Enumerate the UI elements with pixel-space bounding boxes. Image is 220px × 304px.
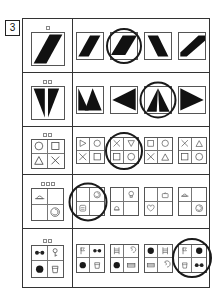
flag-icon (179, 245, 191, 257)
option-3-row-2[interactable] (144, 86, 172, 114)
tick-mark (48, 239, 52, 243)
grid-cell (77, 188, 91, 202)
grid-cell (179, 202, 193, 216)
ladder-icon (159, 245, 171, 257)
problem-row-2 (23, 73, 209, 127)
cross-icon (145, 151, 157, 163)
tick-marks-row-2 (43, 80, 52, 85)
triangle-up-icon (193, 138, 205, 149)
option-4-row-3[interactable] (178, 137, 207, 164)
grid-cell (179, 188, 193, 202)
stem-cell-row-4 (23, 175, 73, 228)
stem-cell-row-1 (23, 19, 73, 72)
cup-icon (179, 259, 191, 271)
diagonal-band-stem (31, 32, 65, 66)
circle-icon (125, 151, 137, 163)
option-1-row-3[interactable] (76, 137, 105, 164)
swirl-icon (91, 189, 103, 201)
tick-mark (43, 133, 47, 137)
tick-marks-row-4 (41, 182, 55, 187)
option-1-row-4[interactable] (76, 187, 105, 216)
grid-cell (90, 245, 104, 259)
grid-cell (124, 151, 138, 164)
cross-icon (111, 138, 123, 149)
option-3-row-4[interactable] (144, 187, 173, 216)
triangle-split-vertical-glyph (145, 87, 171, 113)
grid-cell (77, 138, 91, 151)
option-1-row-2[interactable] (76, 86, 104, 114)
blank-icon (125, 202, 137, 214)
blank-icon (91, 202, 103, 214)
circle-icon (32, 140, 46, 152)
grid-cell (145, 258, 159, 272)
blank-icon (111, 189, 123, 201)
ladder-icon (111, 245, 123, 257)
grid-cell (192, 202, 206, 216)
scroll-icon (77, 202, 89, 214)
option-3-row-3[interactable] (144, 137, 173, 164)
cup-icon (91, 259, 103, 271)
grid-cell (145, 151, 159, 164)
grid-cell (90, 188, 104, 202)
option-4-row-2[interactable] (178, 86, 206, 114)
grid-cell (32, 246, 48, 262)
blank-icon (179, 202, 191, 214)
object-grid-stem (31, 245, 64, 278)
grid-cell (32, 140, 48, 154)
tick-mark (43, 80, 47, 84)
grid-cell (124, 138, 138, 151)
grid-cell (48, 154, 64, 168)
grid-cell (48, 140, 64, 154)
disc-icon (193, 245, 205, 257)
option-3-row-1[interactable] (144, 32, 172, 60)
grid-cell (192, 188, 206, 202)
grid-cell (77, 202, 91, 216)
grid-cell (179, 138, 193, 151)
option-4-row-4[interactable] (178, 187, 207, 216)
option-3-row-5[interactable] (144, 244, 173, 273)
band-down-right-glyph (145, 33, 171, 59)
blank-icon (193, 189, 205, 201)
tick-mark (41, 182, 45, 186)
option-4-row-5[interactable] (178, 244, 207, 273)
double-triangle-down-glyph (32, 87, 64, 119)
grid-cell (179, 258, 193, 272)
option-1-row-5[interactable] (76, 244, 105, 273)
tick-marks-row-3 (43, 133, 52, 138)
cross-icon (77, 151, 89, 163)
triangle-up-icon (32, 154, 46, 167)
grid-cell (111, 188, 125, 202)
triangle-right-glyph (179, 87, 205, 113)
option-1-row-1[interactable] (76, 32, 104, 60)
item-number-box: 3 (5, 20, 20, 36)
option-2-row-4[interactable] (110, 187, 139, 216)
grid-cell (124, 245, 138, 259)
cross-icon (48, 154, 63, 167)
blank-icon (145, 189, 157, 201)
tick-mark (48, 80, 52, 84)
option-2-row-2[interactable] (110, 86, 138, 114)
triangle-right-icon (77, 138, 89, 149)
glasses-icon (33, 246, 46, 259)
spiral-icon (125, 245, 137, 257)
option-2-row-5[interactable] (110, 244, 139, 273)
grid-cell (145, 245, 159, 259)
glasses-icon (193, 259, 205, 271)
grid-cell (48, 189, 64, 205)
bag-icon (159, 189, 171, 201)
grid-cell (192, 138, 206, 151)
grid-cell (77, 245, 91, 259)
grid-cell (158, 188, 172, 202)
grid-cell (179, 151, 193, 164)
hat-icon (179, 189, 191, 201)
option-2-row-3[interactable] (110, 137, 139, 164)
grid-cell (111, 245, 125, 259)
key-icon (48, 246, 62, 259)
problem-row-4 (23, 175, 209, 229)
option-4-row-1[interactable] (178, 32, 206, 60)
grid-cell (145, 202, 159, 216)
grid-cell (111, 202, 125, 216)
grid-cell (192, 151, 206, 164)
grid-cell (145, 138, 159, 151)
option-2-row-1[interactable] (110, 32, 138, 60)
